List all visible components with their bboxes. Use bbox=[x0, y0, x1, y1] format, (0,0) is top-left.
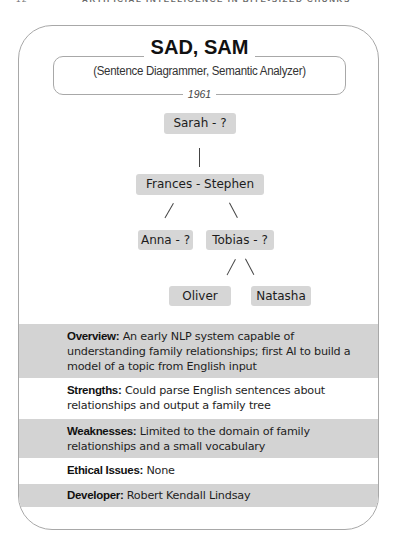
overview-section: Overview: An early NLP system capable of… bbox=[19, 324, 379, 378]
connector-sarah-frances bbox=[199, 148, 200, 167]
tree-node-sarah: Sarah - ? bbox=[164, 113, 236, 134]
card-year-text: 1961 bbox=[183, 88, 216, 100]
running-title: ARTIFICIAL INTELLIGENCE IN BITE-SIZED CH… bbox=[82, 0, 351, 4]
developer-section: Developer: Robert Kendall Lindsay bbox=[19, 484, 379, 507]
card-title-text: SAD, SAM bbox=[144, 36, 256, 58]
tree-node-natasha: Natasha bbox=[251, 286, 311, 306]
card-subtitle: (Sentence Diagrammer, Semantic Analyzer) bbox=[33, 64, 365, 78]
card-year: 1961 bbox=[19, 87, 379, 101]
connector-frances-tobias bbox=[229, 202, 238, 218]
overview-label: Overview: bbox=[67, 330, 119, 342]
connector-tobias-oliver bbox=[227, 259, 237, 276]
strengths-section: Strengths: Could parse English sentences… bbox=[19, 378, 379, 419]
page-number: 12 bbox=[16, 0, 28, 4]
connector-frances-anna bbox=[165, 203, 175, 218]
tree-node-tobias: Tobias - ? bbox=[206, 230, 274, 250]
ethical-issues-section: Ethical Issues: None bbox=[19, 458, 379, 484]
weaknesses-section: Weaknesses: Limited to the domain of fam… bbox=[19, 419, 379, 458]
tree-node-anna: Anna - ? bbox=[138, 230, 193, 250]
ethical-issues-text: None bbox=[146, 464, 174, 477]
info-card: SAD, SAM (Sentence Diagrammer, Semantic … bbox=[18, 25, 379, 530]
tree-node-oliver: Oliver bbox=[169, 286, 231, 306]
weaknesses-label: Weaknesses: bbox=[67, 425, 136, 437]
tree-node-frances-stephen: Frances - Stephen bbox=[136, 174, 264, 195]
connector-tobias-natasha bbox=[245, 258, 255, 275]
strengths-label: Strengths: bbox=[67, 384, 122, 396]
running-header: 12 ARTIFICIAL INTELLIGENCE IN BITE-SIZED… bbox=[0, 0, 399, 5]
card-title: SAD, SAM bbox=[19, 36, 379, 58]
developer-text: Robert Kendall Lindsay bbox=[127, 489, 251, 502]
ethical-issues-label: Ethical Issues: bbox=[67, 464, 143, 476]
developer-label: Developer: bbox=[67, 489, 123, 501]
